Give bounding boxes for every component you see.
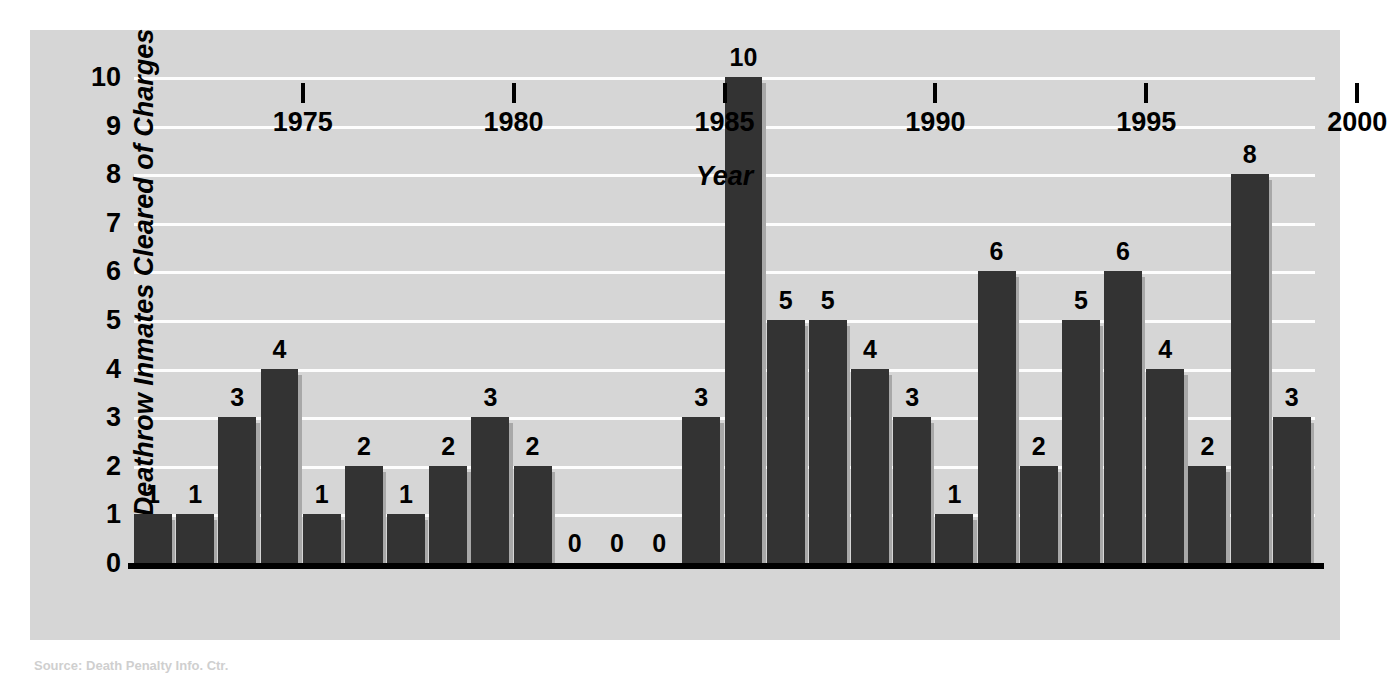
bar-slot: 3: [1273, 77, 1315, 563]
bar[interactable]: [1020, 466, 1058, 563]
bar-slot: 2: [514, 77, 556, 563]
chart-figure: 012345678910 Deathrow Inmates Cleared of…: [30, 30, 1340, 640]
bar[interactable]: [176, 514, 214, 563]
bar-slot: 6: [978, 77, 1020, 563]
bar-value-label: 2: [514, 434, 552, 459]
bar-slot: 3: [893, 77, 935, 563]
bar[interactable]: [725, 77, 763, 563]
bar[interactable]: [387, 514, 425, 563]
bar-slot: 5: [809, 77, 851, 563]
bar-slot: 1: [303, 77, 345, 563]
plot-area: 012345678910 Deathrow Inmates Cleared of…: [134, 77, 1315, 563]
bar-value-label: 2: [1188, 434, 1226, 459]
bar-slot: 1: [176, 77, 218, 563]
bar-slot: 1: [387, 77, 429, 563]
bar-slot: 3: [471, 77, 513, 563]
bar-value-label: 6: [1104, 239, 1142, 264]
bar[interactable]: [1104, 271, 1142, 563]
bar-value-label: 3: [893, 385, 931, 410]
x-tick-label: 1985: [665, 107, 785, 138]
bar-value-label: 0: [556, 531, 594, 556]
bar-value-label: 1: [303, 482, 341, 507]
y-tick-label: 10: [61, 64, 121, 91]
bar-slot: 4: [1146, 77, 1188, 563]
bar-slot: 4: [851, 77, 893, 563]
bar[interactable]: [218, 417, 256, 563]
bar-slot: 3: [218, 77, 260, 563]
bar-slot: 2: [345, 77, 387, 563]
bar[interactable]: [134, 514, 172, 563]
bar[interactable]: [1273, 417, 1311, 563]
x-axis-title: Year: [134, 161, 1315, 192]
bar-value-label: 3: [682, 385, 720, 410]
bar-value-label: 4: [1146, 337, 1184, 362]
bar[interactable]: [767, 320, 805, 563]
bar-value-label: 2: [1020, 434, 1058, 459]
bar-slot: 3: [682, 77, 724, 563]
bar-value-label: 1: [387, 482, 425, 507]
bar-value-label: 1: [935, 482, 973, 507]
bar[interactable]: [809, 320, 847, 563]
bar-slot: 0: [556, 77, 598, 563]
bar[interactable]: [261, 369, 299, 563]
bar[interactable]: [978, 271, 1016, 563]
y-tick-label: 0: [61, 550, 121, 577]
bar-slot: 10: [725, 77, 767, 563]
bar[interactable]: [1231, 174, 1269, 563]
bar-slot: 5: [767, 77, 809, 563]
bar-value-label: 0: [598, 531, 636, 556]
bar[interactable]: [682, 417, 720, 563]
y-tick-label: 1: [61, 501, 121, 528]
y-tick-label: 4: [61, 355, 121, 382]
bar-value-label: 1: [134, 482, 172, 507]
y-tick-label: 2: [61, 452, 121, 479]
bar-value-label: 0: [640, 531, 678, 556]
bar-slot: 4: [261, 77, 303, 563]
bar-value-label: 2: [429, 434, 467, 459]
bar[interactable]: [429, 466, 467, 563]
bar-value-label: 10: [725, 45, 763, 70]
bar-slot: 2: [1020, 77, 1062, 563]
x-tick-label: 1995: [1086, 107, 1206, 138]
bar[interactable]: [851, 369, 889, 563]
x-tick-label: 1980: [454, 107, 574, 138]
y-tick-label: 6: [61, 258, 121, 285]
x-tick-label: 1975: [243, 107, 363, 138]
bar-value-label: 6: [978, 239, 1016, 264]
bar-slot: 1: [134, 77, 176, 563]
bar[interactable]: [1062, 320, 1100, 563]
bar-slot: 5: [1062, 77, 1104, 563]
bar-slot: 0: [598, 77, 640, 563]
bar[interactable]: [514, 466, 552, 563]
bar-value-label: 3: [471, 385, 509, 410]
bar[interactable]: [471, 417, 509, 563]
bar[interactable]: [1188, 466, 1226, 563]
bar-value-label: 3: [218, 385, 256, 410]
x-tick-mark: [1144, 83, 1148, 103]
bar-value-label: 2: [345, 434, 383, 459]
y-tick-label: 3: [61, 404, 121, 431]
bar[interactable]: [935, 514, 973, 563]
x-axis-line: [128, 563, 1324, 569]
x-tick-label: 2000: [1297, 107, 1391, 138]
bar-value-label: 4: [851, 337, 889, 362]
bar-slot: 2: [429, 77, 471, 563]
bar[interactable]: [303, 514, 341, 563]
bar-value-label: 5: [1062, 288, 1100, 313]
bar-slot: 1: [935, 77, 977, 563]
bar[interactable]: [893, 417, 931, 563]
x-tick-mark: [933, 83, 937, 103]
bar-slot: 0: [640, 77, 682, 563]
x-tick-mark: [512, 83, 516, 103]
bar-value-label: 3: [1273, 385, 1311, 410]
bar-slot: 2: [1188, 77, 1230, 563]
source-caption: Source: Death Penalty Info. Ctr.: [34, 658, 1334, 676]
bar[interactable]: [345, 466, 383, 563]
x-tick-mark: [723, 83, 727, 103]
y-tick-label: 7: [61, 209, 121, 236]
bar-slot: 6: [1104, 77, 1146, 563]
bar[interactable]: [1146, 369, 1184, 563]
bar-value-label: 5: [809, 288, 847, 313]
bar-slot: 8: [1231, 77, 1273, 563]
bar-value-label: 5: [767, 288, 805, 313]
